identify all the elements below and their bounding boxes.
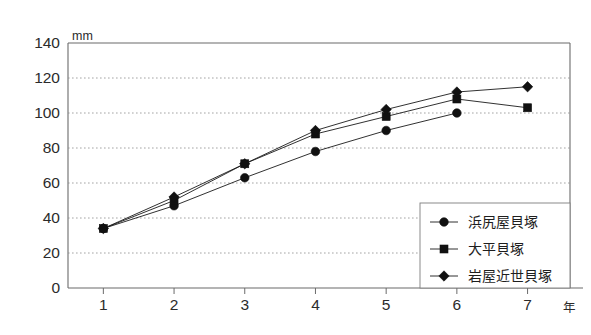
legend-marker-circle-icon: [440, 218, 449, 227]
x-axis-tick-marks: [103, 288, 527, 294]
data-point-s3-x7: [522, 82, 532, 92]
data-point-s2-x7: [524, 104, 532, 112]
y-tick-label-100: 100: [34, 104, 60, 121]
x-tick-label-2: 2: [170, 296, 179, 313]
y-tick-label-60: 60: [43, 174, 61, 191]
y-tick-label-80: 80: [43, 139, 61, 156]
chart-legend: 浜尻屋貝塚大平貝塚岩屋近世貝塚: [420, 203, 570, 288]
y-tick-label-0: 0: [51, 279, 60, 296]
x-tick-label-6: 6: [453, 296, 462, 313]
x-tick-label-1: 1: [99, 296, 108, 313]
x-tick-label-4: 4: [311, 296, 320, 313]
legend-label-1: 浜尻屋貝塚: [468, 214, 538, 230]
x-axis-unit-label: 年: [563, 301, 576, 315]
data-point-s1-x3: [240, 173, 249, 182]
data-point-s1-x6: [453, 109, 462, 118]
y-tick-label-20: 20: [43, 244, 61, 261]
x-tick-label-7: 7: [523, 296, 532, 313]
y-tick-label-120: 120: [34, 69, 60, 86]
y-axis-unit-label: mm: [72, 29, 93, 43]
x-tick-label-5: 5: [382, 296, 391, 313]
chart-canvas: 020406080100120140 1234567 mm 年 浜尻屋貝塚大平貝…: [0, 0, 591, 335]
data-point-s1-x4: [311, 147, 320, 156]
line-chart-figure: 020406080100120140 1234567 mm 年 浜尻屋貝塚大平貝…: [0, 0, 591, 335]
x-tick-label-3: 3: [240, 296, 249, 313]
series-line-1: [103, 113, 457, 229]
data-point-s1-x5: [382, 126, 391, 135]
legend-label-2: 大平貝塚: [468, 241, 524, 257]
y-tick-label-140: 140: [34, 34, 60, 51]
legend-marker-square-icon: [440, 245, 448, 253]
y-axis-tick-labels: 020406080100120140: [34, 34, 60, 296]
series-1-circle: [99, 109, 461, 233]
legend-label-3: 岩屋近世貝塚: [468, 268, 552, 284]
y-tick-label-40: 40: [43, 209, 61, 226]
x-axis-tick-labels: 1234567: [99, 296, 532, 313]
